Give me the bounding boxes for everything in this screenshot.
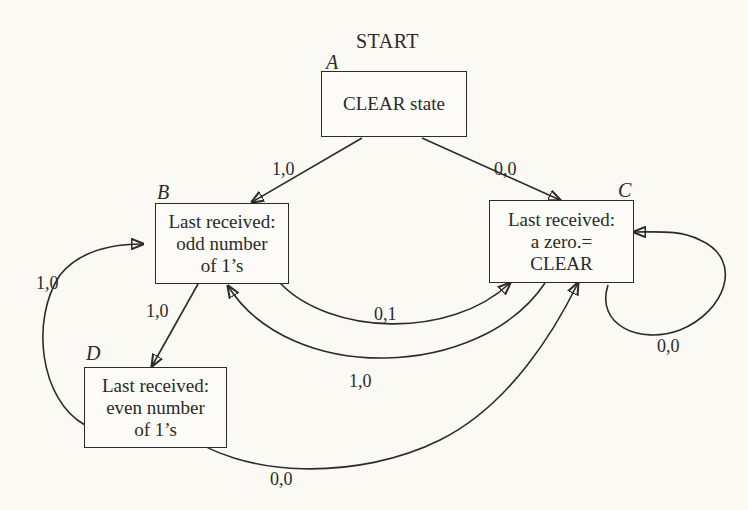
edge-a-to-c — [422, 138, 560, 200]
label-d-to-c: 0,0 — [270, 470, 293, 488]
label-d-to-b: 1,0 — [36, 274, 59, 292]
state-d-line-2: even number — [106, 397, 205, 419]
state-b-box: Last received: odd number of 1’s — [155, 203, 289, 284]
label-c-to-b: 1,0 — [349, 372, 372, 390]
state-d-box: Last received: even number of 1’s — [84, 367, 227, 448]
state-a-letter: A — [326, 52, 338, 72]
label-b-to-c: 0,1 — [374, 305, 397, 323]
state-c-line-2: a zero.= — [531, 231, 592, 253]
state-c-box: Last received: a zero.= CLEAR — [489, 200, 634, 283]
state-c-letter: C — [618, 180, 631, 200]
state-b-line-3: of 1’s — [201, 255, 244, 277]
label-c-self-loop: 0,0 — [657, 337, 680, 355]
label-a-to-c: 0,0 — [494, 160, 517, 178]
state-d-line-3: of 1’s — [134, 419, 177, 441]
start-label: START — [356, 31, 419, 51]
state-c-line-3: CLEAR — [530, 253, 592, 275]
edge-b-to-d — [152, 284, 198, 366]
state-a-box: CLEAR state — [321, 71, 467, 137]
state-d-letter: D — [86, 343, 100, 363]
label-a-to-b: 1,0 — [272, 160, 295, 178]
state-a-line-1: CLEAR state — [343, 93, 445, 115]
state-b-line-2: odd number — [176, 233, 267, 255]
state-diagram: START A CLEAR state B Last received: odd… — [0, 0, 748, 510]
state-b-line-1: Last received: — [168, 211, 275, 233]
state-c-line-1: Last received: — [508, 209, 615, 231]
label-b-to-d: 1,0 — [146, 302, 169, 320]
state-b-letter: B — [157, 182, 169, 202]
state-d-line-1: Last received: — [102, 375, 209, 397]
edge-a-to-b — [252, 138, 362, 202]
